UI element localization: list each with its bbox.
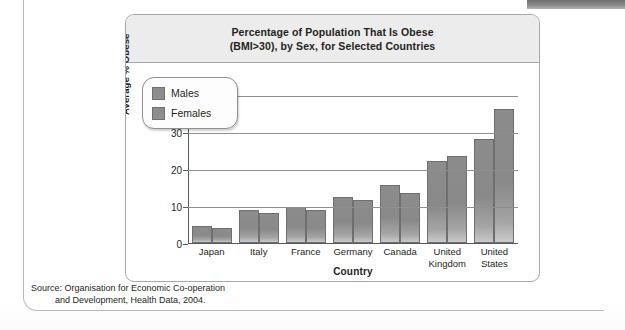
legend-swatch-icon xyxy=(152,87,165,100)
chart-title-line-2: (BMI>30), by Sex, for Selected Countries xyxy=(230,39,436,53)
plot-area: Average % Obese 010203040 JapanItalyFran… xyxy=(126,63,539,282)
bar xyxy=(259,213,279,243)
legend-label: Females xyxy=(171,107,211,119)
bar xyxy=(380,185,400,243)
y-axis-tick xyxy=(183,170,188,171)
y-axis-tick xyxy=(183,244,188,245)
legend-item-females: Females xyxy=(152,103,237,123)
chart-figure: Percentage of Population That Is Obese (… xyxy=(125,14,540,282)
bar xyxy=(239,210,259,243)
legend-item-males: Males xyxy=(152,83,237,103)
chart-title-line-1: Percentage of Population That Is Obese xyxy=(231,25,433,39)
x-axis-tick-label-line: United xyxy=(471,246,518,258)
x-axis-line xyxy=(188,243,518,244)
x-axis-tick-label-line: Canada xyxy=(377,246,424,258)
bar xyxy=(400,193,420,243)
gridline xyxy=(188,133,518,134)
y-axis-title: Average % Obese xyxy=(125,34,131,115)
y-axis-tick-label: 0 xyxy=(176,239,182,250)
x-axis-tick-label-line: Japan xyxy=(188,246,235,258)
y-axis-tick-label: 20 xyxy=(171,164,182,175)
bar xyxy=(474,139,494,243)
chart-title: Percentage of Population That Is Obese (… xyxy=(126,15,539,63)
bar-group xyxy=(377,77,424,243)
y-axis-tick xyxy=(183,207,188,208)
bar xyxy=(494,109,514,243)
bar xyxy=(212,228,232,243)
bar xyxy=(286,207,306,243)
chart-legend: Males Females xyxy=(142,77,238,129)
legend-swatch-icon xyxy=(152,107,165,120)
source-line-2: and Development, Health Data, 2004. xyxy=(31,295,291,307)
gridline xyxy=(188,170,518,171)
bar-group xyxy=(424,77,471,243)
bar xyxy=(427,161,447,243)
bar-group xyxy=(329,77,376,243)
source-note: Source: Organisation for Economic Co-ope… xyxy=(31,283,291,306)
source-line-1: Source: Organisation for Economic Co-ope… xyxy=(31,283,225,293)
bar-group xyxy=(471,77,518,243)
x-axis-tick-label-line: Italy xyxy=(235,246,282,258)
bar xyxy=(192,226,212,243)
bar xyxy=(333,197,353,243)
x-axis-tick-label-line: France xyxy=(282,246,329,258)
x-axis-title: Country xyxy=(188,266,518,277)
bar xyxy=(306,210,326,243)
bar-group xyxy=(235,77,282,243)
y-axis-tick xyxy=(183,133,188,134)
x-axis-tick-label-line: Germany xyxy=(329,246,376,258)
x-axis-tick-label-line: United xyxy=(424,246,471,258)
gridline xyxy=(188,207,518,208)
legend-label: Males xyxy=(171,87,199,99)
bar-group xyxy=(282,77,329,243)
y-axis-tick-label: 10 xyxy=(171,201,182,212)
